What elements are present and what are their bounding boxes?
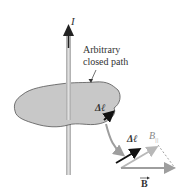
path-label-line1: Arbitrary xyxy=(83,45,120,55)
dl-label-detail: Δℓ xyxy=(127,134,138,144)
zoom-transition-arrow xyxy=(106,124,122,154)
projection-dashed-line xyxy=(158,145,175,168)
path-label-line2: closed path xyxy=(83,57,128,67)
b-parallel-subscript: || xyxy=(155,137,158,143)
b-parallel-label: B|| xyxy=(149,131,158,143)
current-label: I xyxy=(71,16,75,27)
ampere-law-diagram xyxy=(0,0,192,193)
dl-label-on-path: Δℓ xyxy=(95,103,106,113)
wire-lower xyxy=(66,120,71,175)
b-vector-label: B xyxy=(141,179,148,189)
